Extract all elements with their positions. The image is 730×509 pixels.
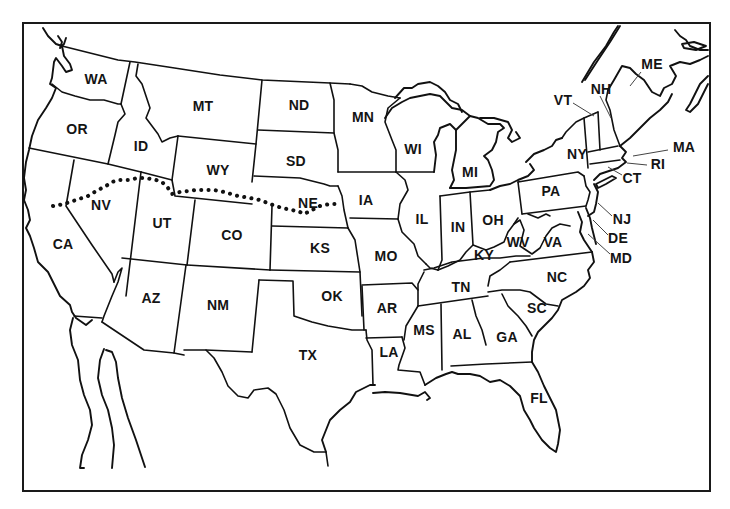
nj-leader-line — [598, 203, 612, 216]
ne-ia-border — [338, 186, 348, 228]
va-nc-border — [510, 252, 592, 262]
nj-coast — [588, 184, 598, 216]
state-label-nd: ND — [289, 97, 310, 113]
state-label-ms: MS — [413, 322, 434, 338]
rio-grande — [206, 350, 328, 466]
state-label-ar: AR — [377, 300, 398, 316]
nc-sc-border — [488, 290, 558, 306]
ma-south-border — [590, 160, 620, 164]
tx-panhandle-border — [259, 280, 366, 330]
pa-south-border — [522, 206, 586, 214]
state-label-mn: MN — [352, 109, 374, 125]
state-label-fl: FL — [530, 390, 548, 406]
state-label-md: MD — [610, 250, 632, 266]
tn-west-border — [418, 272, 424, 306]
pei-island — [682, 42, 706, 50]
maine-south-coast — [620, 94, 672, 146]
la-ms-border — [398, 337, 425, 385]
co-east-border — [270, 206, 272, 270]
state-label-az: AZ — [141, 290, 160, 306]
ia-mo-border — [350, 218, 398, 219]
state-label-ma: MA — [673, 139, 695, 155]
ut-co-border — [187, 200, 195, 265]
lake-erie-shore — [490, 164, 534, 190]
pa-nj-border — [584, 176, 590, 206]
state-label-mi: MI — [462, 164, 478, 180]
baja-coast-east — [98, 349, 114, 468]
nd-sd-border — [258, 130, 334, 133]
ar-la-border — [366, 337, 402, 338]
state-label-ny: NY — [567, 146, 587, 162]
in-oh-border — [470, 192, 473, 245]
state-label-la: LA — [379, 344, 398, 360]
state-label-nh: NH — [591, 81, 612, 97]
state-label-in: IN — [451, 219, 465, 235]
ny-north-border — [562, 112, 598, 138]
state-label-al: AL — [452, 326, 471, 342]
co-nm-border — [187, 265, 270, 270]
ca-nv-border — [66, 160, 114, 282]
state-label-ia: IA — [359, 192, 373, 208]
in-mi-border — [440, 190, 490, 196]
wa-or-border — [52, 84, 121, 104]
long-island — [596, 176, 616, 188]
state-label-or: OR — [66, 121, 87, 137]
state-label-wi: WI — [404, 141, 422, 157]
state-label-ct: CT — [622, 170, 641, 186]
state-label-ga: GA — [496, 329, 517, 345]
la-gulf-coast — [373, 392, 430, 400]
tn-south-border — [418, 296, 488, 306]
id-mt-border — [136, 64, 178, 142]
state-label-ok: OK — [321, 288, 342, 304]
mn-wi-border — [385, 98, 400, 172]
al-ms-border — [441, 304, 442, 370]
tx-gulf-coast — [322, 385, 375, 452]
state-label-wv: WV — [507, 234, 530, 250]
state-label-il: IL — [416, 211, 429, 227]
lake-ontario-shore — [526, 138, 562, 162]
tn-nc-border — [488, 262, 510, 286]
state-label-mo: MO — [375, 248, 398, 264]
state-label-sd: SD — [286, 153, 306, 169]
nm-mexico-border — [184, 350, 252, 352]
ne-ks-border — [272, 226, 348, 228]
state-label-nv: NV — [91, 197, 111, 213]
ma-north-border — [588, 146, 618, 152]
state-label-de: DE — [608, 230, 628, 246]
ca-mexico-border — [74, 316, 102, 318]
or-south-border — [29, 148, 141, 172]
or-id-border — [108, 104, 125, 164]
st-lawrence-north — [582, 26, 618, 82]
mt-wy-border — [178, 136, 256, 144]
canada-border-mn — [350, 84, 400, 98]
nova-scotia — [686, 76, 708, 112]
state-label-nc: NC — [547, 269, 568, 285]
state-label-ky: KY — [474, 247, 494, 263]
state-label-wy: WY — [207, 162, 230, 178]
mainland-mexico-coast — [106, 350, 145, 467]
ri-leader-line — [627, 163, 647, 165]
mo-ar-border — [362, 283, 418, 290]
state-label-tn: TN — [451, 279, 470, 295]
ga-al-border — [472, 300, 486, 345]
wy-south-border — [172, 180, 252, 204]
nh-me-border — [606, 90, 620, 146]
sd-ne-border — [254, 176, 338, 186]
oh-pa-border — [518, 182, 522, 214]
state-label-ne: NE — [298, 195, 318, 211]
state-label-id: ID — [134, 138, 148, 154]
state-label-sc: SC — [527, 300, 547, 316]
st-lawrence-south — [585, 26, 620, 80]
state-label-ut: UT — [152, 215, 171, 231]
ga-fl-border — [451, 362, 532, 366]
state-label-nm: NM — [207, 297, 229, 313]
nd-mn-border — [330, 83, 338, 172]
state-label-nj: NJ — [613, 211, 631, 227]
vt-nh-border — [598, 112, 600, 150]
ok-ar-border — [362, 286, 364, 330]
state-label-oh: OH — [482, 212, 503, 228]
state-label-me: ME — [641, 56, 662, 72]
state-label-ri: RI — [651, 156, 665, 172]
az-nm-border — [174, 265, 186, 353]
mt-nd-border — [252, 80, 262, 182]
